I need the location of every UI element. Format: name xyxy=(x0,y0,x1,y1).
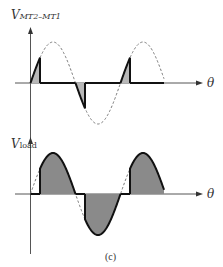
top-xlabel: θ xyxy=(207,76,214,90)
waveform-diagram xyxy=(0,0,223,267)
top-x-arrow-icon xyxy=(196,81,203,86)
bottom-xlabel: θ xyxy=(207,187,214,201)
top-ylabel: VMT2–MT1 xyxy=(11,8,61,22)
triac-waveform-figure: VMT2–MT1 θ Vload θ (c) xyxy=(0,0,223,267)
top-y-arrow-icon xyxy=(28,27,33,34)
bottom-x-arrow-icon xyxy=(196,192,203,197)
figure-caption: (c) xyxy=(105,251,116,262)
bottom-ylabel: Vload xyxy=(11,137,37,151)
